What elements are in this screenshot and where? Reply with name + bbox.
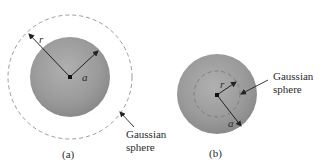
label-a-b: a (228, 117, 234, 129)
label-r-a: r (39, 33, 44, 45)
label-a-a: a (82, 71, 88, 83)
caption-b: (b) (209, 147, 222, 160)
gaussian-label-a-line2: sphere (126, 141, 155, 153)
center-dot-b (215, 93, 219, 97)
figure-b: r a Gaussian sphere (b) (177, 54, 314, 160)
gaussian-pointer-a (120, 112, 134, 127)
caption-a: (a) (62, 148, 75, 161)
gaussian-label-a-line1: Gaussian (126, 128, 167, 140)
center-dot-a (68, 75, 72, 79)
gaussian-label-b-line2: sphere (273, 83, 302, 95)
figure-a: r a Gaussian sphere (a) (8, 15, 167, 161)
label-r-b: r (220, 78, 225, 90)
gauss-diagram: r a Gaussian sphere (a) r a Gaussian sph… (0, 0, 330, 163)
gaussian-label-b-line1: Gaussian (273, 70, 314, 82)
